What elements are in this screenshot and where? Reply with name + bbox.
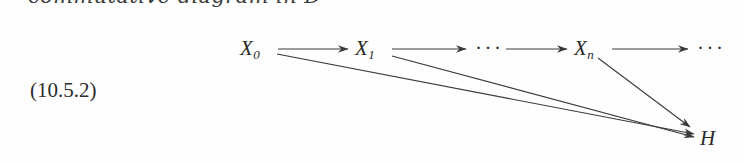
node-xn-base: X [574, 36, 587, 60]
node-x1-subscript: 1 [368, 47, 375, 62]
tail-ellipsis: ··· [697, 36, 725, 61]
node-x0-subscript: 0 [253, 47, 260, 62]
node-x0: X0 [240, 36, 260, 63]
mid-ellipsis: ··· [475, 36, 503, 61]
node-x1-base: X [355, 36, 368, 60]
node-x1: X1 [355, 36, 375, 63]
node-h: H [700, 126, 715, 151]
arrow-x0-to-h [277, 54, 694, 134]
node-xn: Xn [574, 36, 594, 63]
arrow-xn-to-h [598, 58, 690, 127]
node-h-base: H [700, 126, 715, 150]
commutative-diagram: X0 X1 Xn H ··· ··· [0, 0, 744, 163]
figure-container: commutative diagram in D (10.5.2) X0 [0, 0, 744, 163]
node-x0-base: X [240, 36, 253, 60]
node-xn-subscript: n [587, 47, 594, 62]
diagram-arrows [0, 0, 744, 163]
